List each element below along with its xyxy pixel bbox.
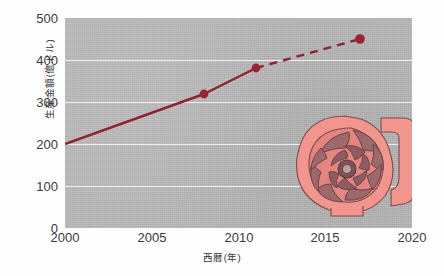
data-point-2011 xyxy=(252,64,261,73)
x-tick-2000: 2000 xyxy=(35,231,95,244)
y-axis-title: 生産金額(億ドル) xyxy=(42,24,56,134)
x-axis-title: 西暦(年) xyxy=(0,250,444,264)
data-point-2017 xyxy=(355,34,365,44)
chart-figure: 500 400 300 200 100 0 生産金額(億ドル) 2000 200… xyxy=(0,0,444,276)
data-point-2008 xyxy=(200,90,209,99)
plot-area xyxy=(65,18,412,228)
series-actual-line xyxy=(65,68,256,144)
y-tick-200: 200 xyxy=(6,138,58,151)
x-tick-2010: 2010 xyxy=(209,231,269,244)
x-tick-2015: 2015 xyxy=(295,231,355,244)
data-series-svg xyxy=(65,18,412,228)
x-tick-2020: 2020 xyxy=(382,231,442,244)
y-tick-100: 100 xyxy=(6,180,58,193)
series-forecast-line xyxy=(256,39,360,68)
x-tick-2005: 2005 xyxy=(122,231,182,244)
